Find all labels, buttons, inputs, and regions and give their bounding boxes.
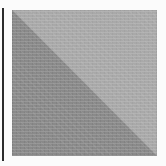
- swatch-canvas: [0, 0, 166, 166]
- vertical-rule: [2, 8, 4, 161]
- two-tone-diagonal-swatch: [12, 10, 157, 156]
